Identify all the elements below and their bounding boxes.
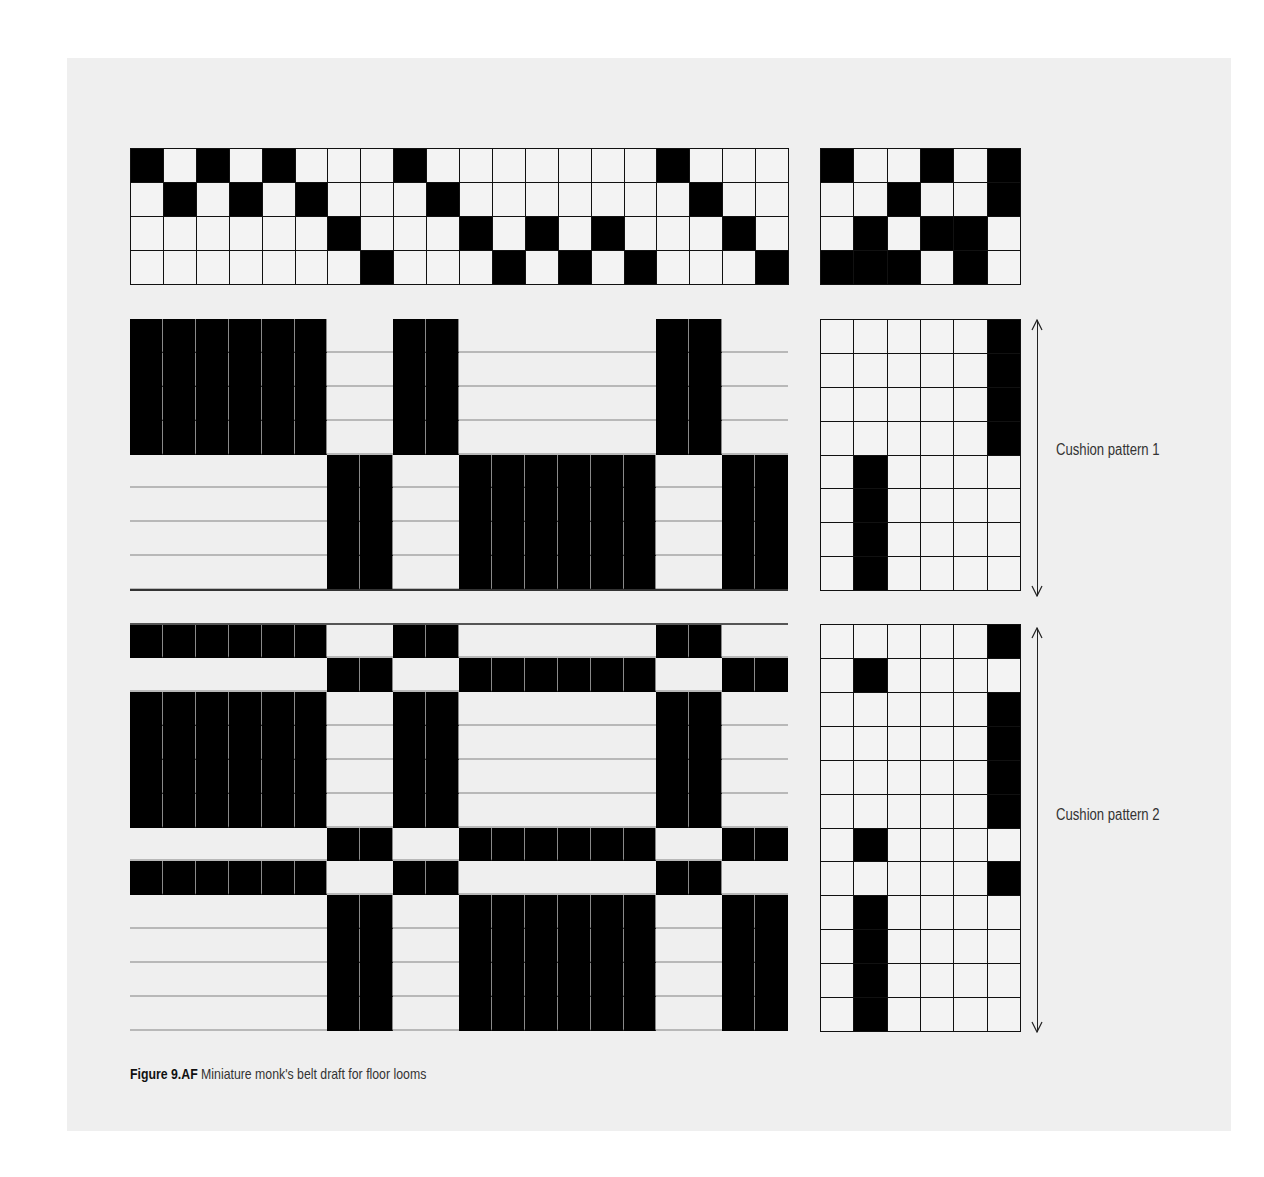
empty-cell: [888, 149, 921, 183]
empty-cell: [954, 149, 987, 183]
empty-cell: [525, 692, 558, 726]
filled-cell: [656, 794, 689, 828]
filled-cell: [558, 963, 591, 997]
empty-cell: [921, 862, 954, 896]
empty-cell: [888, 862, 921, 896]
filled-cell: [954, 217, 987, 251]
empty-cell: [492, 692, 525, 726]
filled-cell: [295, 726, 328, 760]
filled-cell: [295, 861, 328, 895]
filled-cell: [130, 861, 163, 895]
empty-cell: [558, 760, 591, 794]
empty-cell: [459, 319, 492, 353]
filled-cell: [722, 488, 755, 522]
empty-cell: [755, 861, 788, 895]
empty-cell: [493, 149, 526, 183]
filled-cell: [656, 861, 689, 895]
filled-cell: [854, 557, 887, 591]
filled-cell: [988, 625, 1021, 659]
empty-cell: [954, 761, 987, 795]
empty-cell: [426, 828, 459, 862]
empty-cell: [888, 795, 921, 829]
filled-cell: [295, 421, 328, 455]
empty-cell: [492, 794, 525, 828]
empty-cell: [229, 556, 262, 590]
filled-cell: [689, 319, 722, 353]
empty-cell: [591, 794, 624, 828]
filled-cell: [525, 929, 558, 963]
filled-cell: [196, 760, 229, 794]
filled-cell: [360, 963, 393, 997]
empty-cell: [954, 625, 987, 659]
empty-cell: [196, 828, 229, 862]
filled-cell: [624, 556, 657, 590]
empty-cell: [558, 421, 591, 455]
empty-cell: [722, 624, 755, 658]
empty-cell: [689, 929, 722, 963]
empty-cell: [755, 319, 788, 353]
treadling-pattern-1: [820, 319, 1021, 591]
empty-cell: [525, 387, 558, 421]
empty-cell: [492, 760, 525, 794]
empty-cell: [689, 556, 722, 590]
filled-cell: [327, 522, 360, 556]
filled-cell: [163, 726, 196, 760]
filled-cell: [327, 658, 360, 692]
empty-cell: [459, 353, 492, 387]
filled-cell: [327, 455, 360, 489]
filled-cell: [591, 929, 624, 963]
empty-cell: [426, 963, 459, 997]
filled-cell: [988, 388, 1021, 422]
empty-cell: [888, 761, 921, 795]
filled-cell: [262, 319, 295, 353]
filled-cell: [558, 556, 591, 590]
filled-cell: [229, 353, 262, 387]
filled-cell: [196, 861, 229, 895]
empty-cell: [459, 861, 492, 895]
empty-cell: [197, 183, 230, 217]
empty-cell: [426, 997, 459, 1031]
filled-cell: [296, 183, 329, 217]
filled-cell: [426, 319, 459, 353]
filled-cell: [755, 997, 788, 1031]
empty-cell: [558, 861, 591, 895]
empty-cell: [689, 522, 722, 556]
filled-cell: [426, 726, 459, 760]
empty-cell: [988, 659, 1021, 693]
filled-cell: [262, 624, 295, 658]
filled-cell: [854, 251, 887, 285]
empty-cell: [558, 726, 591, 760]
filled-cell: [262, 387, 295, 421]
empty-cell: [756, 217, 789, 251]
filled-cell: [459, 929, 492, 963]
filled-cell: [525, 997, 558, 1031]
filled-cell: [492, 522, 525, 556]
filled-cell: [525, 455, 558, 489]
empty-cell: [625, 217, 658, 251]
filled-cell: [493, 251, 526, 285]
empty-cell: [854, 727, 887, 761]
empty-cell: [327, 692, 360, 726]
filled-cell: [525, 488, 558, 522]
empty-cell: [130, 963, 163, 997]
filled-cell: [921, 217, 954, 251]
empty-cell: [163, 895, 196, 929]
filled-cell: [426, 760, 459, 794]
empty-cell: [196, 895, 229, 929]
empty-cell: [393, 455, 426, 489]
empty-cell: [328, 251, 361, 285]
empty-cell: [888, 964, 921, 998]
empty-cell: [821, 625, 854, 659]
empty-cell: [821, 964, 854, 998]
empty-cell: [954, 388, 987, 422]
empty-cell: [492, 861, 525, 895]
filled-cell: [558, 929, 591, 963]
filled-cell: [163, 421, 196, 455]
empty-cell: [360, 692, 393, 726]
empty-cell: [954, 795, 987, 829]
filled-cell: [558, 997, 591, 1031]
filled-cell: [888, 251, 921, 285]
filled-cell: [689, 624, 722, 658]
empty-cell: [360, 353, 393, 387]
empty-cell: [459, 624, 492, 658]
